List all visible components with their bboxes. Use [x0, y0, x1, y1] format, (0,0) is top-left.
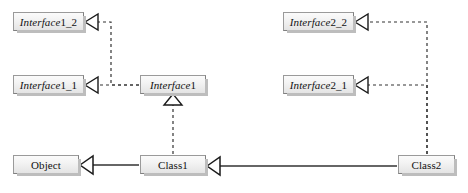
- label-plain-part: 1: [191, 79, 197, 91]
- uml-node-class1[interactable]: Class1: [140, 155, 206, 174]
- uml-node-interface1[interactable]: Interface1: [140, 75, 206, 94]
- uml-node-interface2_1[interactable]: Interface2_1: [283, 75, 354, 94]
- uml-class-diagram: Interface1_2 Interface2_2 Interface1_1 I…: [0, 0, 468, 193]
- label-plain-part: 2_1: [330, 79, 347, 91]
- uml-node-class2[interactable]: Class2: [398, 155, 455, 174]
- uml-node-label: Interface1: [150, 79, 196, 91]
- uml-node-label: Interface1_2: [20, 16, 77, 28]
- box-shadow-bottom: [287, 30, 356, 33]
- edge-class1-to-object: [80, 156, 139, 174]
- uml-node-label: Interface1_1: [20, 79, 77, 91]
- box-shadow-bottom: [17, 173, 81, 176]
- label-plain-part: Class1: [158, 159, 188, 171]
- uml-node-interface1_2[interactable]: Interface1_2: [13, 12, 84, 31]
- uml-node-label: Class1: [158, 159, 188, 171]
- edge-class1-to-interface1: [164, 94, 182, 154]
- box-shadow-bottom: [402, 173, 457, 176]
- box-shadow-bottom: [17, 30, 86, 33]
- box-shadow-bottom: [287, 93, 356, 96]
- uml-node-label: Interface2_2: [290, 16, 347, 28]
- uml-node-label: Interface2_1: [290, 79, 347, 91]
- uml-node-interface1_1[interactable]: Interface1_1: [13, 75, 84, 94]
- label-italic-part: Interface: [290, 16, 331, 28]
- label-plain-part: Class2: [412, 159, 442, 171]
- box-shadow-bottom: [144, 173, 208, 176]
- uml-node-interface2_2[interactable]: Interface2_2: [283, 12, 354, 31]
- box-shadow-bottom: [144, 93, 208, 96]
- label-plain-part: Object: [31, 159, 61, 171]
- box-shadow-bottom: [17, 93, 86, 96]
- label-plain-part: 2_2: [330, 16, 347, 28]
- edge-class2-to-interface2_1: [355, 77, 427, 154]
- edge-interface1-to-interface1_2: [85, 14, 139, 85]
- label-italic-part: Interface: [290, 79, 331, 91]
- label-italic-part: Interface: [20, 16, 61, 28]
- uml-node-object[interactable]: Object: [13, 155, 79, 174]
- label-plain-part: 1_2: [60, 16, 77, 28]
- uml-node-label: Class2: [412, 159, 442, 171]
- uml-node-label: Object: [31, 159, 61, 171]
- label-plain-part: 1_1: [60, 79, 77, 91]
- label-italic-part: Interface: [20, 79, 61, 91]
- label-italic-part: Interface: [150, 79, 191, 91]
- edge-class2-to-class1: [207, 157, 397, 175]
